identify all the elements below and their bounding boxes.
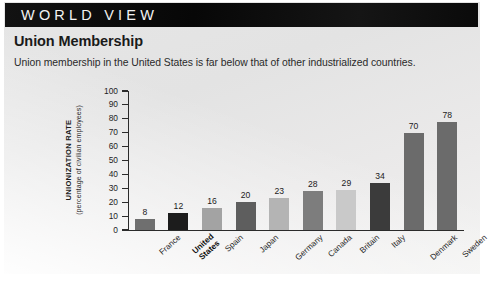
bar-value-label: 20 (236, 190, 256, 200)
bar[interactable] (404, 133, 424, 230)
x-axis-category-label: UnitedStates (191, 232, 222, 262)
y-axis-title: UNIONIZATION RATE (percentage of civilia… (64, 88, 94, 232)
bar-group[interactable]: 12UnitedStates (168, 91, 188, 230)
bar-group[interactable]: 78Sweden (437, 91, 457, 230)
y-axis-tick-label: 10 (92, 212, 118, 220)
bar-group[interactable]: 29Britain (336, 91, 356, 230)
bar[interactable] (202, 208, 222, 230)
y-axis-tick-label: 90 (92, 100, 118, 108)
x-axis-category-label: Japan (257, 233, 280, 255)
x-axis-category-label: France (157, 233, 182, 257)
union-membership-bar-chart: UNIONIZATION RATE (percentage of civilia… (0, 0, 494, 283)
y-axis-title-main: UNIONIZATION RATE (64, 88, 74, 232)
y-axis-tick-label-text: 100 (92, 87, 118, 95)
x-axis-category-label: Britain (358, 233, 381, 255)
y-axis-tick-label: 50 (92, 156, 118, 164)
y-axis-tick-label-text: 80 (92, 114, 118, 122)
y-axis-tick-label-text: 20 (92, 198, 118, 206)
y-axis-tick-label: 70 (92, 128, 118, 136)
bar-value-label: 70 (404, 121, 424, 131)
bar-group[interactable]: 34Italy (370, 91, 390, 230)
y-axis-tick-label-text: 40 (92, 170, 118, 178)
bar-group[interactable]: 20Japan (236, 91, 256, 230)
y-axis-tick-label-text: 0 (92, 226, 118, 234)
bar[interactable] (336, 190, 356, 230)
y-axis-tick-label: 40 (92, 170, 118, 178)
bar[interactable] (236, 202, 256, 230)
bar-group[interactable]: 16Spain (202, 91, 222, 230)
y-axis-title-sub: (percentage of civilian employees) (74, 88, 83, 232)
bar-value-label: 29 (336, 178, 356, 188)
y-axis-tick-label: 60 (92, 142, 118, 150)
bar[interactable] (269, 198, 289, 230)
figure-page: WORLD VIEW Union Membership Union member… (0, 0, 494, 283)
y-axis-tick-label: 100 (92, 87, 118, 95)
x-axis-category-label: Denmark (428, 233, 459, 262)
x-axis-category-label: Germany (294, 233, 325, 262)
bar-value-label: 78 (437, 110, 457, 120)
bar-value-label: 12 (168, 201, 188, 211)
y-axis-tick-label: 0 (92, 226, 118, 234)
bar[interactable] (370, 183, 390, 230)
x-axis-line (128, 230, 464, 231)
y-axis-tick-label-text: 60 (92, 142, 118, 150)
y-axis-tick-label: 20 (92, 198, 118, 206)
x-axis-category-label: Spain (223, 233, 245, 254)
y-axis-tick-label-text: 30 (92, 184, 118, 192)
bar-series: 8France12UnitedStates16Spain20Japan23Ger… (128, 91, 464, 230)
y-axis-tick-label-text: 50 (92, 156, 118, 164)
bar-value-label: 23 (269, 186, 289, 196)
y-axis-tick-label: 80 (92, 114, 118, 122)
y-axis-tick-label: 30 (92, 184, 118, 192)
y-axis-tick-label-text: 70 (92, 128, 118, 136)
bar[interactable] (303, 191, 323, 230)
y-axis-tick-label-text: 90 (92, 100, 118, 108)
x-axis-category-label: Sweden (461, 233, 489, 259)
bar[interactable] (135, 219, 155, 230)
bar[interactable] (437, 122, 457, 230)
bar[interactable] (168, 213, 188, 230)
bar-value-label: 34 (370, 171, 390, 181)
y-axis-tick-label-text: 10 (92, 212, 118, 220)
bar-group[interactable]: 28Canada (303, 91, 323, 230)
bar-group[interactable]: 8France (135, 91, 155, 230)
bar-group[interactable]: 70Denmark (404, 91, 424, 230)
x-axis-category-label: Italy (390, 233, 407, 250)
bar-value-label: 16 (202, 196, 222, 206)
bar-value-label: 28 (303, 179, 323, 189)
x-axis-category-label: Canada (326, 233, 353, 259)
bar-value-label: 8 (135, 207, 155, 217)
bar-group[interactable]: 23Germany (269, 91, 289, 230)
